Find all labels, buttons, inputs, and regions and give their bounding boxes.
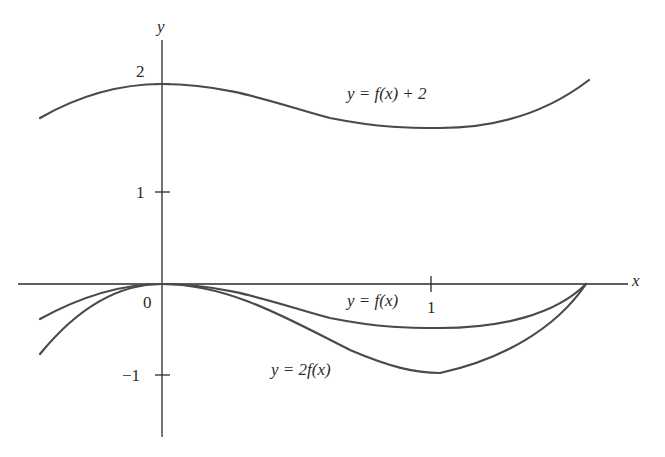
curve-label-f-plus-2: y = f(x) + 2 bbox=[347, 85, 427, 102]
origin-label: 0 bbox=[143, 294, 152, 311]
y-tick-label-2: 2 bbox=[136, 63, 145, 80]
x-axis-label: x bbox=[632, 272, 640, 289]
y-axis-label: y bbox=[157, 18, 165, 35]
x-tick-label-1: 1 bbox=[427, 299, 436, 316]
curve-label-2f: y = 2f(x) bbox=[271, 361, 331, 378]
curve-label-f: y = f(x) bbox=[347, 292, 398, 309]
y-tick-label-1: 1 bbox=[136, 184, 145, 201]
curve-f-plus-2 bbox=[40, 80, 589, 128]
y-tick-label-neg1: −1 bbox=[122, 367, 140, 384]
function-graph bbox=[0, 0, 665, 457]
